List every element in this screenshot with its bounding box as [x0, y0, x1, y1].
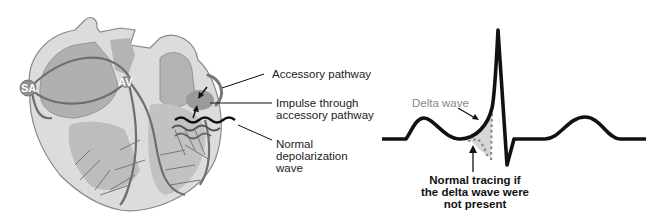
heart-diagram-panel: SA AV Accessory pathway Impulse through …: [0, 0, 380, 221]
impulse-through-accessory-label: Impulse through accessory pathway: [276, 97, 374, 121]
av-node-label: AV: [118, 76, 132, 88]
delta-wave-label: Delta wave: [412, 97, 469, 109]
normal-tracing-label: Normal tracing if the delta wave were no…: [420, 174, 530, 210]
normal-depolarization-label: Normal depolarization wave: [276, 138, 348, 174]
ecg-tracing-panel: Delta wave Normal tracing if the delta w…: [380, 0, 664, 221]
accessory-pathway-label: Accessory pathway: [272, 68, 371, 80]
sa-node-label: SA: [21, 82, 36, 94]
